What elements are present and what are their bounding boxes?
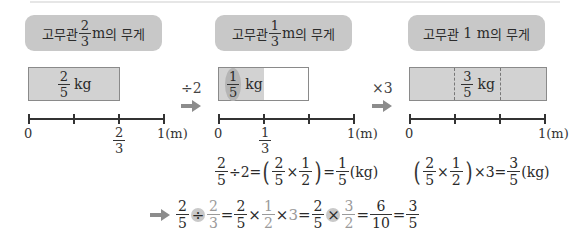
title-fraction: 13: [270, 19, 280, 48]
title-suffix: 의 무게: [105, 24, 145, 43]
bar-label-fraction: 25: [59, 70, 69, 99]
bar-segment-labeled: 35 kg: [455, 68, 500, 100]
title-unit: m: [282, 25, 295, 41]
divide-highlight: ÷: [191, 208, 205, 222]
axis-label-end: 1(m): [538, 126, 569, 141]
times-3-label: ×3: [372, 80, 393, 96]
title-prefix: 고무관: [42, 24, 78, 43]
tick: [118, 114, 120, 124]
tick: [499, 114, 501, 124]
axis-label-0: 0: [405, 126, 413, 141]
tick: [544, 114, 546, 124]
title-prefix: 고무관: [232, 24, 268, 43]
tick: [28, 114, 30, 124]
bar-segment: [501, 68, 546, 100]
title-unit: m: [477, 25, 490, 41]
axis-label-0: 0: [24, 126, 32, 141]
top-rule: [30, 1, 560, 3]
bar-label-fraction: 35: [462, 70, 472, 99]
panel2-number-line: [218, 118, 355, 120]
tick: [353, 114, 355, 124]
tick: [163, 114, 165, 124]
title-unit: m: [92, 25, 105, 41]
right-arrow-icon: [372, 100, 392, 112]
panel1-bar: 25 kg: [28, 67, 120, 101]
tick: [409, 114, 411, 124]
equation-right: ( 25 × 12 ) ×3= 35 (kg): [412, 156, 550, 187]
panel3-title: 고무관 1 m의 무게: [408, 15, 545, 51]
multiply-highlight: ×: [326, 208, 340, 222]
right-arrow-icon: [181, 100, 201, 112]
divide-by-2-label: ÷2: [181, 80, 202, 96]
equation-left: 25 ÷2= ( 25 × 12 ) = 15 (kg): [214, 156, 378, 187]
bar-empty-segment: [264, 68, 309, 100]
bar-segment: [410, 68, 455, 100]
tick: [308, 114, 310, 124]
right-arrow-icon: [150, 209, 170, 221]
bar-label-unit: kg: [477, 76, 494, 92]
title-suffix: 의 무게: [295, 24, 335, 43]
title-fraction: 23: [80, 19, 90, 48]
tick: [73, 114, 75, 124]
bar-label-fraction-highlighted: 15: [225, 68, 241, 101]
title-suffix: 의 무게: [490, 24, 530, 43]
panel1-title: 고무관 23 m의 무게: [25, 15, 162, 51]
title-value: 1: [463, 25, 472, 41]
tick: [263, 114, 265, 124]
bar-filled-segment: 15 kg: [219, 68, 264, 100]
bar-label-unit: kg: [245, 76, 262, 92]
tick: [218, 114, 220, 124]
axis-label-0: 0: [214, 126, 222, 141]
equation-final: 25 ÷ 23 = 25 × 12 × 3 = 25 × 32 = 610 = …: [150, 199, 420, 230]
panel3-number-line: [409, 118, 546, 120]
bar-filled-segment: 25 kg: [29, 68, 119, 100]
axis-label-end: 1(m): [347, 126, 378, 141]
axis-label-frac: 23: [112, 126, 126, 155]
axis-label-frac: 13: [258, 126, 272, 155]
axis-label-end: 1(m): [157, 126, 188, 141]
panel3-bar: 35 kg: [409, 67, 547, 101]
panel2-bar: 15 kg: [218, 67, 309, 101]
tick: [454, 114, 456, 124]
panel2-title: 고무관 13 m의 무게: [215, 15, 352, 51]
panel1-number-line: [28, 118, 165, 120]
bar-label-unit: kg: [74, 76, 91, 92]
title-prefix: 고무관: [423, 24, 459, 43]
